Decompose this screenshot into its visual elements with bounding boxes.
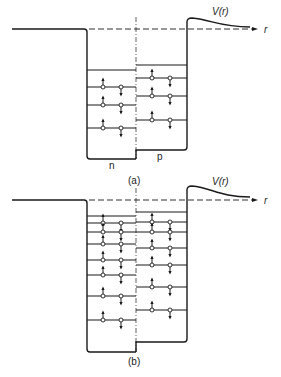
panel-b-neutron-particle-icon xyxy=(119,258,123,262)
panel-a-neutron-arrowhead-up-icon xyxy=(101,78,104,82)
nuclear-potential-well-diagram xyxy=(0,0,281,377)
panel-a-neutron-arrowhead-down-icon xyxy=(119,134,122,138)
panel-b-neutron-particle-icon xyxy=(101,230,105,234)
panel-b-proton-particle-icon xyxy=(150,246,154,250)
panel-b-neutron-particle-icon xyxy=(101,318,105,322)
panel-a-neutron-particle-icon xyxy=(119,85,123,89)
panel-b-neutron-arrowhead-down-icon xyxy=(119,326,122,330)
panel-a-neutron-well xyxy=(12,29,136,159)
panel-b-proton-particle-icon xyxy=(150,230,154,234)
panel-a-proton-arrowhead-up-icon xyxy=(150,69,153,73)
proton-region-label: p xyxy=(157,152,163,162)
panel-a-proton-particle-icon xyxy=(150,76,154,80)
panel-b-proton-arrowhead-down-icon xyxy=(168,316,171,320)
panel-b-proton-arrowhead-down-icon xyxy=(168,254,171,258)
panel-b-r-axis-arrow-icon xyxy=(252,198,258,202)
panel-b-proton-particle-icon xyxy=(168,220,172,224)
panel-a-proton-particle-icon xyxy=(168,76,172,80)
panel-b-proton-particle-icon xyxy=(150,308,154,312)
panel-b-neutron-arrowhead-down-icon xyxy=(119,266,122,270)
panel-b-proton-arrowhead-up-icon xyxy=(150,278,153,282)
panel-b-proton-arrowhead-down-icon xyxy=(168,238,171,242)
panel-b-proton-particle-icon xyxy=(168,246,172,250)
panel-b-neutron-particle-icon xyxy=(101,242,105,246)
panel-a-neutron-particle-icon xyxy=(119,103,123,107)
potential-label-a: V(r) xyxy=(212,7,229,17)
panel-b-proton-particle-icon xyxy=(150,263,154,267)
panel-b-proton-arrowhead-up-icon xyxy=(150,256,153,260)
panel-b-neutron-arrowhead-down-icon xyxy=(119,302,122,306)
panel-b-neutron-arrowhead-up-icon xyxy=(101,287,104,291)
panel-a-neutron-particle-icon xyxy=(101,126,105,130)
panel-caption-a: (a) xyxy=(128,176,140,186)
radius-axis-label-b: r xyxy=(264,196,267,206)
radius-axis-label-a: r xyxy=(264,25,267,35)
panel-a-neutron-particle-icon xyxy=(101,85,105,89)
panel-a-proton-arrowhead-down-icon xyxy=(168,84,171,88)
panel-b-neutron-arrowhead-down-icon xyxy=(119,250,122,254)
panel-b-neutron-particle-icon xyxy=(101,294,105,298)
panel-b-neutron-arrowhead-up-icon xyxy=(101,214,104,218)
panel-b-neutron-arrowhead-up-icon xyxy=(101,266,104,270)
panel-b-neutron-arrowhead-up-icon xyxy=(101,251,104,255)
panel-b-proton-particle-icon xyxy=(168,308,172,312)
panel-b-proton-arrowhead-down-icon xyxy=(168,293,171,297)
panel-b-neutron-particle-icon xyxy=(119,318,123,322)
panel-b-proton-arrowhead-up-icon xyxy=(150,239,153,243)
panel-b-proton-arrowhead-down-icon xyxy=(168,271,171,275)
potential-label-b: V(r) xyxy=(212,177,229,187)
panel-a-proton-arrowhead-down-icon xyxy=(168,102,171,106)
panel-a-proton-particle-icon xyxy=(150,94,154,98)
panel-b-proton-particle-icon xyxy=(168,263,172,267)
panel-a-proton-arrowhead-down-icon xyxy=(168,126,171,130)
panel-b-neutron-particle-icon xyxy=(119,242,123,246)
panel-a-neutron-particle-icon xyxy=(101,103,105,107)
panel-a-proton-well-coulomb-barrier xyxy=(136,18,250,159)
panel-b-neutron-particle-icon xyxy=(101,258,105,262)
panel-a-r-axis-arrow-icon xyxy=(252,27,258,31)
panel-b-proton-particle-icon xyxy=(150,285,154,289)
panel-a-proton-particle-icon xyxy=(168,94,172,98)
panel-b-proton-arrowhead-up-icon xyxy=(150,213,153,217)
panel-b-proton-particle-icon xyxy=(168,285,172,289)
panel-a-proton-particle-icon xyxy=(150,118,154,122)
panel-b-neutron-arrowhead-down-icon xyxy=(119,281,122,285)
panel-b-neutron-particle-icon xyxy=(119,230,123,234)
panel-b-proton-particle-icon xyxy=(168,230,172,234)
panel-a-neutron-particle-icon xyxy=(119,126,123,130)
panel-a-proton-particle-icon xyxy=(168,118,172,122)
panel-a-neutron-arrowhead-down-icon xyxy=(119,111,122,115)
panel-a-proton-arrowhead-up-icon xyxy=(150,111,153,115)
panel-b-proton-arrowhead-up-icon xyxy=(150,301,153,305)
panel-a-neutron-arrowhead-down-icon xyxy=(119,93,122,97)
neutron-region-label: n xyxy=(109,161,115,171)
panel-b-neutron-arrowhead-up-icon xyxy=(101,235,104,239)
panel-b-neutron-particle-icon xyxy=(119,221,123,225)
panel-caption-b: (b) xyxy=(128,357,140,367)
panel-b-proton-well-coulomb-barrier xyxy=(136,186,250,352)
panel-a-proton-arrowhead-up-icon xyxy=(150,87,153,91)
panel-b-neutron-particle-icon xyxy=(119,294,123,298)
panel-b-neutron-particle-icon xyxy=(119,273,123,277)
panel-b-neutron-arrowhead-up-icon xyxy=(101,311,104,315)
panel-a-neutron-arrowhead-up-icon xyxy=(101,119,104,123)
panel-b-neutron-arrowhead-down-icon xyxy=(119,238,122,242)
panel-b-neutron-particle-icon xyxy=(101,273,105,277)
panel-a-neutron-arrowhead-up-icon xyxy=(101,96,104,100)
